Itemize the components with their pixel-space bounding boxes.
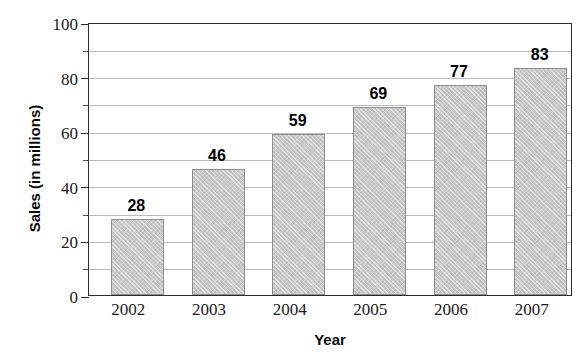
y-axis-minor-tick: [83, 105, 89, 106]
y-axis-minor-tick: [83, 51, 89, 52]
bar: [434, 85, 487, 295]
gridline: [89, 133, 571, 134]
y-axis-tick: [81, 133, 89, 134]
bar-value-label: 59: [261, 113, 334, 129]
bar-chart: Sales (in millions) 020406080100 Year 28…: [0, 0, 584, 357]
bar: [111, 219, 164, 295]
x-axis-tick-label: 2002: [88, 301, 169, 318]
gridline: [89, 105, 571, 106]
y-axis-tick: [81, 242, 89, 243]
y-axis-minor-tick: [83, 160, 89, 161]
y-axis-tick: [81, 78, 89, 79]
gridline: [89, 215, 571, 216]
bar-value-label: 83: [503, 47, 576, 63]
y-axis-tick: [81, 297, 89, 298]
gridline: [89, 187, 571, 188]
x-axis-tick-label: 2006: [411, 301, 492, 318]
gridline: [89, 160, 571, 161]
bar-value-label: 28: [100, 198, 173, 214]
y-axis-tick-label: 100: [18, 16, 78, 33]
bar-value-label: 46: [181, 148, 254, 164]
bar-value-label: 77: [423, 64, 496, 80]
bar: [272, 134, 325, 295]
y-axis-minor-tick: [83, 269, 89, 270]
chart-title-cropped: [0, 0, 584, 6]
x-axis-tick-label: 2004: [249, 301, 330, 318]
y-axis-tick-label: 20: [18, 234, 78, 251]
bar-value-label: 69: [342, 86, 415, 102]
gridline: [89, 51, 571, 52]
y-axis-tick-label: 40: [18, 179, 78, 196]
x-axis-tick-label: 2005: [330, 301, 411, 318]
bar: [514, 68, 567, 295]
plot-area: 020406080100: [88, 23, 572, 296]
plot-inner: 020406080100: [89, 24, 571, 295]
bar: [353, 107, 406, 295]
y-axis-minor-tick: [83, 215, 89, 216]
bar: [192, 169, 245, 295]
y-axis-tick: [81, 24, 89, 25]
x-axis-tick-label: 2007: [491, 301, 572, 318]
gridline: [89, 78, 571, 79]
y-axis-tick-label: 0: [18, 289, 78, 306]
y-axis-tick-label: 60: [18, 125, 78, 142]
y-axis-tick-label: 80: [18, 70, 78, 87]
x-axis-tick-label: 2003: [169, 301, 250, 318]
y-axis-tick: [81, 187, 89, 188]
x-axis-title: Year: [88, 331, 572, 348]
